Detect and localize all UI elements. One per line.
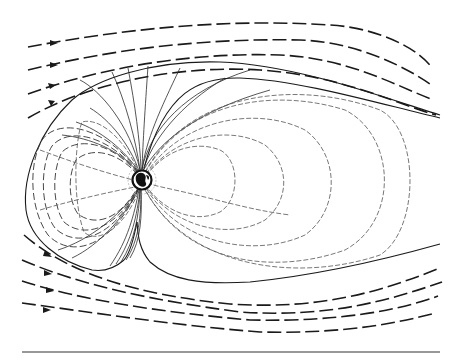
arrow-icon (50, 40, 58, 46)
magnetopause (25, 62, 440, 283)
arrowheads-bottom (43, 250, 54, 313)
arrowheads-top (48, 40, 58, 106)
arrow-icon (43, 307, 51, 313)
arrow-icon (48, 83, 56, 89)
earth (128, 166, 156, 194)
solar-wind-lines-bottom (22, 235, 442, 332)
magnetosphere-diagram (0, 0, 457, 360)
nightside-closed-field-lines (40, 95, 410, 268)
